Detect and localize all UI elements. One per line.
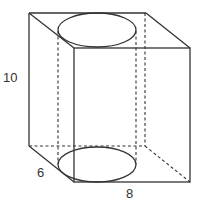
prism-cylinder-diagram: 10 6 8 [0,0,198,205]
depth-label: 6 [37,165,44,180]
visible-edges [29,13,190,182]
top-right-depth-edge [146,13,190,48]
cylinder-top-ellipse [58,13,136,47]
width-label: 8 [126,186,133,201]
height-label: 10 [3,70,17,85]
bottom-right-depth-edge [145,146,190,182]
cylinder [58,13,136,182]
bottom-left-depth-edge [29,146,74,182]
front-face [74,48,190,182]
hidden-edges [29,13,190,182]
cylinder-bottom-ellipse [58,147,136,182]
top-left-depth-edge [29,13,74,48]
